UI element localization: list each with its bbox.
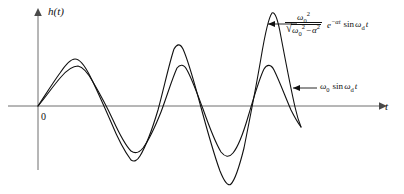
y-axis-arrowhead (34, 8, 42, 16)
damped-response-label: ω02 √ ω02−α2 e−αt sin ωdt (283, 12, 368, 35)
x-axis-label: t (385, 101, 388, 112)
curve-reference-sine (38, 65, 301, 156)
y-axis-label: h(t) (48, 6, 64, 17)
sine-label-arrowhead (293, 85, 300, 91)
sin-operator: sin (344, 19, 355, 29)
origin-label: 0 (41, 112, 46, 122)
undamped-reference-label: ω0 sin ωdt (320, 81, 357, 91)
fraction-denominator: √ ω02−α2 (285, 23, 322, 35)
trig-argument: ωdt (355, 19, 368, 29)
fraction-numerator: ω02 (295, 12, 312, 22)
figure-container: h(t) t 0 ω02 √ ω02−α2 e−αt sin ωdt ω0 si… (0, 0, 404, 194)
figure-caption (4, 184, 244, 194)
sine-amplitude: ω0 (320, 81, 330, 91)
curve-damped-growing (38, 13, 301, 185)
exponential-factor: e−αt (327, 18, 341, 30)
square-root: √ ω02−α2 (286, 23, 321, 35)
radicand: ω02−α2 (291, 24, 321, 35)
amplitude-fraction: ω02 √ ω02−α2 (285, 12, 322, 35)
sin-operator-reference: sin (333, 81, 344, 91)
radical-icon: √ (286, 22, 292, 36)
trig-argument-reference: ωdt (344, 81, 357, 91)
damped-label-arrowhead (268, 21, 275, 27)
